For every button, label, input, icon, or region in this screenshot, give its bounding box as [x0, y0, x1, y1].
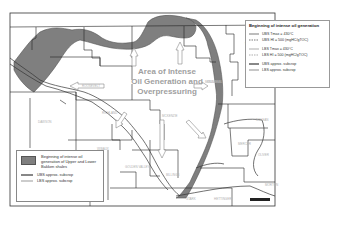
legend-label: LBS Tmax = 430°C [262, 47, 293, 51]
legend-label: UBS HI = 500 (mgHC/gTOC) [262, 38, 308, 42]
legend-label: LBS HI = 500 (mgHC/gTOC) [262, 53, 308, 57]
legend-item-ubs-subcrop: UBS approx. subcrop [21, 173, 99, 177]
legend-title: Beginning of intense oil generation [249, 23, 326, 28]
center-label-line-2: Oil Generation and [112, 77, 222, 87]
thick-line-icon [21, 174, 33, 176]
legend-label: UBS Tmax = 430°C [262, 32, 293, 36]
county-label: RICHLAND [102, 111, 117, 115]
county-label: OLIVER [258, 153, 269, 157]
legend-label: LBS approx. subcrop [262, 68, 296, 72]
county-label: DAWSON [38, 120, 51, 124]
dashed-line-icon [249, 54, 259, 56]
county-label: ROOSEVELT [82, 84, 100, 88]
legend-label: LBS approx. subcrop [37, 179, 72, 183]
solid-line-icon [249, 69, 259, 71]
thick-line-icon [249, 63, 259, 65]
scale-bar [250, 198, 270, 201]
solid-line-icon [21, 180, 33, 182]
county-label: MCKENZIE [162, 114, 178, 118]
county-label: GOLDEN VALLEY [125, 165, 150, 169]
gray-swatch-icon [21, 156, 36, 165]
center-annotation: Area of Intense Oil Generation and Overp… [112, 67, 222, 97]
solid-line-icon [249, 33, 259, 35]
county-label: MERCER [238, 142, 251, 146]
county-label: MORTON [265, 183, 278, 187]
legend-label: UBS approx. subcrop [37, 173, 73, 177]
legend-item-lbs-subcrop: LBS approx. subcrop [21, 179, 99, 183]
county-label: BILLINGS [166, 173, 180, 177]
center-label-line-3: Overpressuring [112, 87, 222, 97]
legend-label: UBS approx. subcrop [262, 62, 296, 66]
legend-bottom-left: Beginning of intense oil generation of U… [16, 150, 104, 202]
legend-item-lbs-subcrop: LBS approx. subcrop [249, 67, 326, 73]
county-label: HETTINGER [214, 197, 231, 201]
county-label: MCLEAN [256, 118, 269, 122]
legend-item-oil-generation-band: Beginning of intense oil generation of U… [21, 154, 99, 169]
solid-line-icon [249, 48, 259, 50]
center-label-line-1: Area of Intense [112, 67, 222, 77]
dashed-line-icon [249, 39, 259, 41]
legend-top-right: Beginning of intense oil generation UBS … [245, 20, 330, 88]
county-label: STARK [186, 197, 196, 201]
legend-label: Beginning of intense oil generation of U… [41, 154, 99, 169]
